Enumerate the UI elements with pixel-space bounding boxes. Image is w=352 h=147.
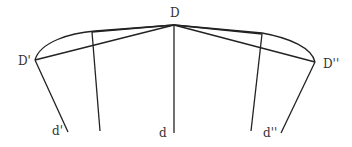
chord-d-ddprime	[174, 25, 315, 62]
arc-curve	[35, 25, 315, 62]
line-right-inner	[251, 34, 262, 131]
line-left-inner	[92, 32, 100, 131]
geometry-diagram: D D' D'' d d' d''	[0, 0, 352, 147]
line-Dprime-dprime	[35, 60, 68, 132]
label-d: d	[159, 126, 167, 140]
label-D-double-prime: D''	[323, 57, 339, 71]
line-Ddprime-ddprime	[281, 62, 315, 133]
label-d-prime: d'	[52, 124, 63, 138]
label-D: D	[170, 6, 180, 20]
label-d-double-prime: d''	[263, 126, 277, 140]
chord-d-right-inner	[174, 25, 262, 34]
label-D-prime: D'	[18, 54, 31, 68]
